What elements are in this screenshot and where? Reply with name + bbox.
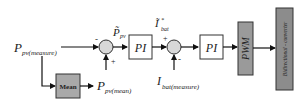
svg-text:-: - <box>95 34 98 44</box>
bidirectional-converter-block: Bidirectional - converter <box>276 8 293 90</box>
svg-text:pv: pv <box>119 33 126 39</box>
svg-text:+: + <box>163 34 168 43</box>
svg-text:PWM: PWM <box>240 36 251 60</box>
svg-text:+: + <box>111 57 116 66</box>
svg-text:-: - <box>178 54 181 64</box>
svg-text:*: * <box>161 17 164 23</box>
control-diagram: P pv(measure) Mean P pv(mean) - + P̃ pv … <box>0 0 308 103</box>
svg-text:bat: bat <box>161 26 169 32</box>
svg-text:Mean: Mean <box>59 83 76 91</box>
svg-text:P̃: P̃ <box>112 26 120 38</box>
i-bat-ref-label: Ĩ * bat <box>154 17 169 32</box>
svg-text:P: P <box>13 40 22 55</box>
p-pv-mean-label: P pv(mean) <box>96 78 132 95</box>
svg-text:PI: PI <box>134 41 147 55</box>
mean-block: Mean <box>56 74 80 98</box>
branch-line <box>42 56 55 86</box>
svg-text:pv(mean): pv(mean) <box>104 87 132 95</box>
pi-controller-1: PI <box>129 35 152 59</box>
svg-text:PI: PI <box>205 41 218 55</box>
svg-text:Ĩ: Ĩ <box>154 17 160 29</box>
svg-text:P: P <box>96 78 105 93</box>
pi-controller-2: PI <box>200 35 223 59</box>
svg-text:Bidirectional - converter: Bidirectional - converter <box>282 21 288 76</box>
p-pv-measure-label: P pv(measure) <box>13 40 57 57</box>
svg-text:bat(measure): bat(measure) <box>162 83 200 91</box>
p-pv-tilde-label: P̃ pv <box>112 26 126 39</box>
i-bat-measure-label: I bat(measure) <box>156 74 200 91</box>
summing-junction-2: + - <box>163 34 181 64</box>
pwm-block: PWM <box>238 22 253 75</box>
svg-text:pv(measure): pv(measure) <box>21 49 57 57</box>
